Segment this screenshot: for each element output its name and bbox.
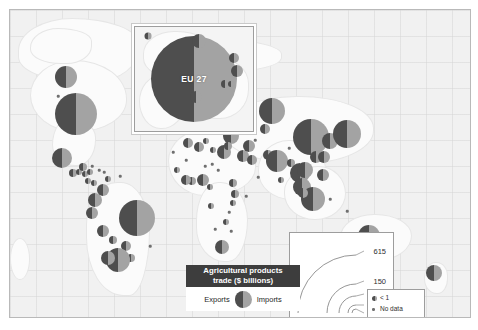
no-data-marker [230,230,233,233]
no-data-marker [217,169,220,172]
trade-symbol [210,147,216,153]
no-data-marker [329,198,332,201]
no-data-marker [98,169,101,172]
trade-symbol [88,193,102,207]
landmass [10,238,30,280]
trade-symbol [190,91,202,103]
trade-symbol [55,93,97,135]
trade-symbol [55,66,77,88]
trade-symbol [87,169,93,175]
trade-symbol [229,179,237,187]
eu-inset-label: EU 27 [181,74,207,84]
scale-value-label: 150 [352,277,386,286]
no-data-marker [185,159,188,162]
trade-symbol [52,148,72,168]
no-data-marker [172,151,175,154]
trade-symbol [229,53,239,63]
no-data-marker [257,176,260,179]
no-data-marker [204,165,207,168]
no-data-marker [91,165,94,168]
trade-symbol [231,65,243,77]
no-data-marker [103,171,106,174]
eu-inset-box: EU 27 [134,26,254,132]
trade-symbol [192,34,206,48]
no-data-label: No data [380,305,403,312]
trade-symbol [266,150,288,172]
trade-symbol [97,225,109,237]
trade-symbol [231,190,239,198]
trade-symbol [79,163,87,171]
trade-symbol [183,138,193,148]
less-than-one-label: < 1 [380,294,389,301]
trade-symbol [298,188,308,198]
legend-title-box: Agricultural products trade ($ billions) [186,265,300,287]
trade-symbol [259,98,285,124]
no-data-marker [245,195,248,198]
trade-symbol [119,200,155,236]
trade-symbol [207,184,213,190]
trade-symbol [101,251,115,265]
trade-symbol [174,167,180,173]
no-data-marker [57,95,60,98]
trade-symbol [297,162,313,178]
trade-symbol [86,207,98,219]
trade-symbol [317,169,329,181]
trade-symbol [145,33,152,40]
world-map: EU 27 61515050101 < 1 No data Agricultur… [9,9,471,318]
scale-arc [298,255,356,313]
nodata-legend: < 1 No data [367,289,425,318]
no-data-marker [149,245,152,248]
imports-label: Imports [257,295,282,304]
trade-symbol [203,138,209,144]
no-data-marker [119,175,122,178]
landmass [30,28,92,64]
no-data-dot-icon [372,308,375,311]
scale-value-label: 615 [352,247,386,256]
trade-symbol [224,142,232,150]
no-data-marker [288,147,291,150]
less-than-one-icon [372,296,377,301]
trade-symbol [223,219,229,225]
trade-symbol [230,200,236,206]
trade-symbol [109,236,117,244]
map-figure: EU 27 61515050101 < 1 No data Agricultur… [0,0,478,330]
trade-symbol [215,240,229,254]
trade-symbol [260,124,270,134]
no-data-marker [211,163,214,166]
trade-symbol [247,155,257,165]
trade-symbol [278,177,284,183]
legend-key-row: Exports Imports [186,287,300,311]
exports-label: Exports [204,295,229,304]
no-data-marker [214,228,217,231]
trade-symbol [426,265,442,281]
trade-symbol [318,151,330,163]
legend-title-line2: trade ($ billions) [213,276,273,286]
no-data-marker [228,211,231,214]
trade-symbol [228,81,234,87]
no-data-marker [346,210,349,213]
legend-title-line1: Agricultural products [203,266,282,276]
trade-symbol [333,120,361,148]
trade-symbol [105,176,111,182]
no-data-marker [254,139,257,142]
trade-symbol [181,175,191,185]
trade-symbol [208,203,214,209]
export-import-split-icon [235,291,252,308]
trade-symbol [243,140,255,152]
